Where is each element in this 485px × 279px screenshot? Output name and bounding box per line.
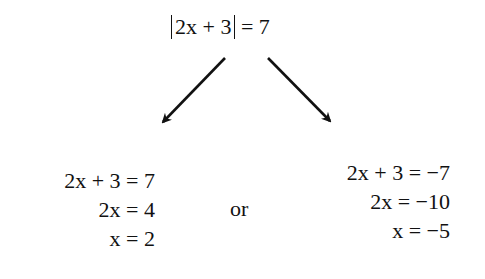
step-line: x = 2 xyxy=(30,224,155,253)
negative-case-steps: 2x + 3 = −7 2x = −10 x = −5 xyxy=(300,158,450,245)
left-arrow-icon xyxy=(163,58,225,122)
right-arrow-icon xyxy=(268,58,330,121)
or-connector: or xyxy=(230,196,248,222)
step-line: 2x = 4 xyxy=(30,195,155,224)
step-line: x = −5 xyxy=(300,216,450,245)
positive-case-steps: 2x + 3 = 7 2x = 4 x = 2 xyxy=(30,166,155,253)
step-line: 2x + 3 = 7 xyxy=(30,166,155,195)
step-line: 2x + 3 = −7 xyxy=(300,158,450,187)
step-line: 2x = −10 xyxy=(300,187,450,216)
